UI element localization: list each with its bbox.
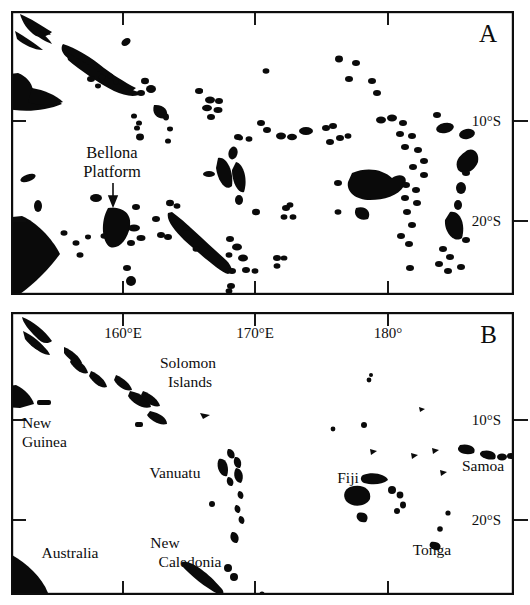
land-solomon-islet-1 — [120, 36, 132, 47]
land-solomon-islet-6 — [95, 84, 101, 89]
land-islet-a66 — [414, 147, 422, 153]
land-newgeorgia-b — [89, 371, 107, 387]
land-loyalty-b2 — [230, 573, 238, 581]
land-solomon-islet-2 — [87, 76, 95, 82]
land-islet-a19 — [137, 235, 146, 241]
land-vitilevu-b — [344, 486, 370, 506]
land-islet-a15 — [34, 200, 42, 212]
land-islet-a68 — [409, 164, 417, 170]
land-islet-a28 — [152, 216, 160, 222]
land-islet-a101 — [193, 246, 200, 252]
land-solomon-islet-9 — [137, 90, 145, 96]
land-vanuatu-b9 — [230, 532, 238, 543]
land-islet-a102 — [226, 252, 233, 258]
place-label-australia: Australia — [42, 544, 99, 561]
land-islet-a73 — [413, 200, 421, 206]
land-islet-a80 — [435, 121, 455, 135]
panel-b-letter: B — [480, 321, 497, 348]
land-islet-a53 — [335, 56, 343, 63]
land-islet-a85 — [454, 200, 462, 210]
land-islet-a34 — [242, 267, 250, 273]
land-islet-b-niuafoou — [432, 448, 439, 454]
land-islet-a48 — [299, 127, 313, 135]
land-makira-b — [147, 411, 167, 424]
land-islet-b-swains — [419, 407, 425, 412]
land-solomon-islet-5 — [113, 80, 119, 85]
land-islet-a46 — [276, 133, 286, 140]
place-label-new-caledonia-line2: Caledonia — [159, 553, 222, 570]
land-islet-a90 — [435, 261, 443, 267]
land-islet-a111 — [287, 202, 294, 208]
land-rotuma-b — [361, 422, 367, 428]
place-label-solomon-islands-line2: Islands — [168, 373, 212, 390]
land-islet-a54 — [352, 60, 360, 66]
land-islet-a69 — [420, 172, 428, 178]
bellona-platform-label-line1: Bellona — [86, 143, 138, 162]
place-label-new-guinea-line2: Guinea — [22, 433, 67, 450]
land-vanuatu-b4 — [234, 468, 243, 483]
land-islet-a18 — [128, 225, 140, 232]
land-islet-a87 — [462, 237, 470, 243]
land-islet-a12 — [136, 134, 144, 141]
land-bellona-platform — [103, 208, 130, 248]
land-islet-a25 — [77, 252, 84, 258]
land-new-guinea-b — [0, 385, 34, 408]
land-vanuatu-a2 — [205, 97, 215, 104]
land-islet-a70 — [402, 182, 410, 188]
land-lau-b2 — [397, 492, 404, 499]
land-vanuatu-a3 — [215, 98, 223, 104]
land-islet-a100 — [183, 225, 190, 231]
place-label-vanuatu: Vanuatu — [150, 464, 201, 481]
place-label-new-guinea-line1: New — [22, 414, 52, 431]
land-vanuatu-b3 — [234, 457, 241, 468]
land-islet-a27 — [126, 276, 136, 286]
panel-a-map: 10°S 20°S Bellona Platform A — [0, 0, 530, 305]
land-lau-b1 — [388, 486, 396, 494]
land-islet-a75 — [408, 222, 416, 228]
land-islet-a60 — [376, 117, 386, 124]
land-islet-a13 — [167, 127, 173, 132]
land-islet-a92 — [457, 264, 465, 270]
land-islet-a65 — [401, 144, 409, 150]
land-islet-a83 — [462, 170, 470, 176]
land-vanuatu-b1 — [227, 449, 235, 459]
land-haapai-b — [437, 526, 443, 532]
land-loyalty-2 — [232, 243, 242, 250]
panel-b-lon-label-170e: 170°E — [236, 325, 274, 341]
land-fiji-platform-a — [348, 169, 406, 200]
land-islet-a43 — [246, 136, 253, 142]
land-islet-a32 — [174, 203, 181, 209]
panel-a-lat-label-20s: 20°S — [472, 213, 501, 229]
place-label-new-caledonia-line1: New — [150, 534, 180, 551]
land-islet-b21 — [367, 378, 372, 383]
land-islet-a45 — [263, 127, 271, 133]
land-islet-a11 — [134, 125, 140, 130]
land-islet-a16 — [90, 194, 102, 202]
land-solomon-islet-4 — [107, 74, 113, 79]
land-islet-a55 — [345, 76, 353, 82]
land-loyalty-1 — [226, 236, 234, 242]
land-solomon-islet-8 — [146, 85, 156, 93]
land-islet-a52 — [326, 139, 334, 145]
land-islet-a84 — [456, 182, 466, 194]
land-islet-a33 — [228, 268, 236, 274]
panel-b-lat-label-10s: 10°S — [472, 412, 501, 428]
land-islet-a30 — [164, 234, 172, 240]
land-santacruz-b — [200, 413, 210, 419]
land-vanuatu-b8 — [239, 516, 245, 524]
land-islet-a64 — [408, 133, 416, 139]
figure-container: 10°S 20°S Bellona Platform A — [0, 0, 530, 605]
land-lau-b4 — [394, 508, 400, 514]
land-australia-b — [0, 555, 48, 595]
land-vanuatu-a12 — [235, 195, 243, 205]
land-islet-a72 — [401, 195, 409, 201]
land-vanuatu-a5 — [214, 107, 223, 113]
land-vanuatu-a10 — [232, 162, 246, 192]
land-islet-a62 — [399, 120, 407, 126]
land-vanuatu-b6 — [238, 491, 244, 499]
land-islet-a77 — [405, 241, 413, 247]
land-islet-a26 — [123, 265, 131, 271]
land-islet-a61 — [387, 115, 397, 122]
land-tonga-ridge-a — [457, 150, 479, 173]
land-vanualevu-b — [361, 473, 388, 484]
